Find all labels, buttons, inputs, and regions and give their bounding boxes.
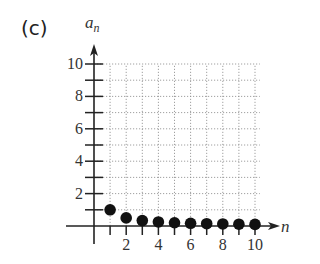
data-point (233, 218, 245, 230)
y-axis-label: an (85, 13, 100, 35)
data-point (153, 216, 165, 228)
x-tick-label: 4 (154, 236, 162, 253)
x-tick-label: 8 (219, 236, 227, 253)
x-axis-label: n (281, 217, 290, 236)
y-tick-label: 2 (75, 185, 83, 202)
data-point (137, 215, 149, 227)
data-point (169, 217, 181, 229)
y-tick-label: 6 (75, 120, 83, 137)
data-point (249, 219, 261, 231)
y-tick-label: 4 (75, 152, 83, 169)
data-point (217, 218, 229, 230)
x-tick-label: 2 (122, 236, 130, 253)
sequence-plot: 246810246810 n an (0, 0, 320, 264)
data-point (120, 212, 132, 224)
y-tick-label: 10 (67, 55, 83, 72)
x-tick-label: 6 (187, 236, 195, 253)
data-point (185, 217, 197, 229)
x-tick-label: 10 (247, 236, 263, 253)
axes (66, 44, 280, 244)
y-tick-label: 8 (75, 87, 83, 104)
data-point (104, 204, 116, 216)
grid (94, 64, 260, 226)
data-point (201, 218, 213, 230)
